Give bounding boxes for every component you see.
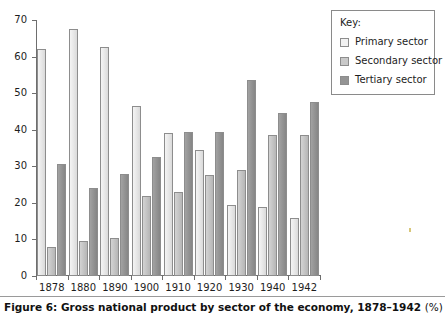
x-axis-tick bbox=[162, 275, 163, 280]
legend-swatch-icon bbox=[340, 57, 349, 66]
legend-item-label: Secondary sector bbox=[355, 56, 442, 66]
legend-item-label: Primary sector bbox=[355, 37, 428, 47]
legend-box: Key: Primary sectorSecondary sectorTerti… bbox=[331, 10, 435, 95]
bar bbox=[79, 241, 88, 276]
bar bbox=[184, 132, 193, 276]
figure-container: 010203040506070 187818801890190019101920… bbox=[0, 0, 445, 318]
x-axis-tick bbox=[131, 275, 132, 280]
bar-group: 1942 bbox=[289, 20, 321, 276]
caption-text: Figure 6: Gross national product by sect… bbox=[4, 301, 421, 313]
x-axis-tick bbox=[225, 275, 226, 280]
x-axis-tick-label: 1940 bbox=[260, 283, 285, 293]
bar-group: 1940 bbox=[257, 20, 289, 276]
x-axis-tick-label: 1890 bbox=[102, 283, 127, 293]
bar bbox=[278, 113, 287, 276]
x-axis-tick bbox=[68, 275, 69, 280]
bar-group: 1880 bbox=[68, 20, 100, 276]
scan-speck bbox=[409, 228, 411, 232]
bar bbox=[120, 174, 129, 276]
y-axis-tick-label: 30 bbox=[14, 161, 27, 171]
x-axis-tick-label: 1942 bbox=[292, 283, 317, 293]
bar bbox=[89, 188, 98, 276]
y-axis-tick-label: 50 bbox=[14, 88, 27, 98]
x-axis-tick bbox=[288, 275, 289, 280]
bar-group: 1930 bbox=[225, 20, 257, 276]
legend-item: Secondary sector bbox=[340, 56, 426, 66]
bar bbox=[290, 218, 299, 277]
x-axis-tick bbox=[99, 275, 100, 280]
x-axis-tick-label: 1910 bbox=[165, 283, 190, 293]
legend-swatch-icon bbox=[340, 38, 349, 47]
bar bbox=[37, 49, 46, 276]
legend-item: Tertiary sector bbox=[340, 75, 426, 85]
bar bbox=[237, 170, 246, 276]
bar bbox=[142, 196, 151, 276]
bar-groups: 187818801890190019101920193019401942 bbox=[36, 20, 320, 276]
caption-divider bbox=[0, 296, 445, 297]
y-axis-tick-label: 40 bbox=[14, 125, 27, 135]
bar bbox=[164, 133, 173, 276]
bar bbox=[57, 164, 66, 276]
y-axis-tick-label: 10 bbox=[14, 234, 27, 244]
bar bbox=[174, 192, 183, 276]
bar-group: 1900 bbox=[131, 20, 163, 276]
y-axis-tick-label: 0 bbox=[21, 271, 27, 281]
legend-items: Primary sectorSecondary sectorTertiary s… bbox=[340, 37, 426, 85]
bar bbox=[258, 207, 267, 276]
x-axis-tick-label: 1920 bbox=[197, 283, 222, 293]
bar bbox=[47, 247, 56, 276]
bar bbox=[205, 175, 214, 276]
x-axis-tick bbox=[257, 275, 258, 280]
bar bbox=[300, 135, 309, 276]
bar bbox=[227, 205, 236, 276]
legend-item-label: Tertiary sector bbox=[355, 75, 427, 85]
bar-group: 1878 bbox=[36, 20, 68, 276]
legend-item: Primary sector bbox=[340, 37, 426, 47]
figure-caption: Figure 6: Gross national product by sect… bbox=[4, 301, 443, 314]
x-axis-tick bbox=[194, 275, 195, 280]
bar bbox=[215, 132, 224, 276]
bar bbox=[310, 102, 319, 276]
y-axis-tick-label: 20 bbox=[14, 198, 27, 208]
bar bbox=[69, 29, 78, 276]
bar-group: 1910 bbox=[162, 20, 194, 276]
bar bbox=[110, 238, 119, 276]
bar bbox=[100, 47, 109, 276]
x-axis-tick-label: 1878 bbox=[39, 283, 64, 293]
bar-group: 1920 bbox=[194, 20, 226, 276]
x-axis-tick-label: 1880 bbox=[71, 283, 96, 293]
bar bbox=[152, 157, 161, 276]
x-axis-tick-label: 1900 bbox=[134, 283, 159, 293]
bar bbox=[195, 150, 204, 276]
caption-unit: (%) bbox=[425, 301, 443, 313]
x-axis-tick bbox=[320, 275, 321, 280]
y-axis-tick-label: 60 bbox=[14, 52, 27, 62]
bar bbox=[132, 106, 141, 276]
bar bbox=[247, 80, 256, 276]
legend-swatch-icon bbox=[340, 76, 349, 85]
x-axis-tick bbox=[36, 275, 37, 280]
legend-title: Key: bbox=[340, 18, 426, 28]
x-axis-tick-label: 1930 bbox=[228, 283, 253, 293]
bar-group: 1890 bbox=[99, 20, 131, 276]
y-axis-tick-label: 70 bbox=[14, 15, 27, 25]
plot-area: 010203040506070 187818801890190019101920… bbox=[36, 20, 320, 276]
bar bbox=[268, 135, 277, 276]
